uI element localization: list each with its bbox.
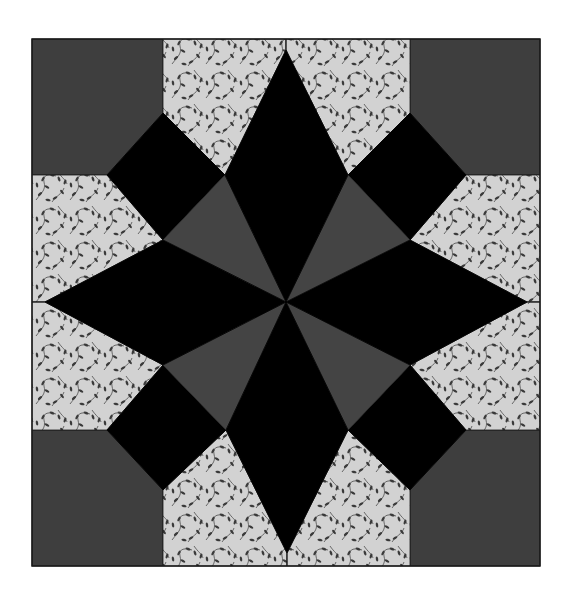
quilt-block [0,0,571,599]
